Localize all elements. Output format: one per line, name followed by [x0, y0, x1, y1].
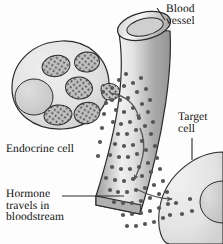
label-blood-vessel: Blood vessel [166, 4, 195, 27]
endocrine-signaling-figure: Blood vessel Target cell Endocrine cell … [0, 0, 223, 244]
label-endocrine-cell: Endocrine cell [6, 144, 74, 156]
label-hormone-travels-in-bloodstream: Hormone travels in bloodstream [6, 189, 64, 224]
label-target-cell: Target cell [178, 112, 208, 135]
blood-vessel [96, 7, 173, 214]
